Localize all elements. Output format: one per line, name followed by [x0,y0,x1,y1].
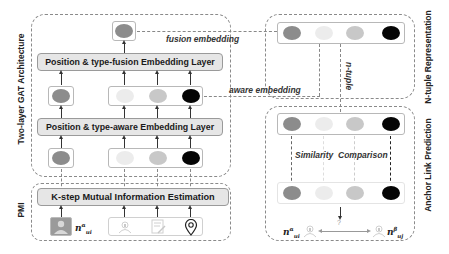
arrow-up [124,138,125,148]
math-subsub: i [90,229,92,235]
math-sup: β [394,226,398,232]
ntuple-location-node [382,26,400,40]
math-subsub: i [298,233,300,239]
anchor-top-profile-node [315,117,333,131]
pmi-attribute-icons-box [108,217,203,236]
ntuple-label: n-tuple [344,62,354,90]
aware-user-node [52,89,70,103]
input-user-node [52,151,70,165]
ntuple-text-node [346,26,364,40]
arrow-up [157,73,158,85]
user-photo-icon [50,217,72,236]
aware-profile-node [116,89,134,103]
similarity-connector [323,136,324,186]
aware-location-node [182,89,200,103]
arrow-up [61,108,62,118]
input-text-node [149,151,167,165]
arrow-up [61,73,62,85]
aware-attribute-nodes-box [108,86,203,106]
pmi-group-label: PMI [16,190,26,230]
text-post-icon [151,219,166,235]
aware-user-node-box [48,86,74,106]
fusion-output-node-box [112,21,136,41]
anchor-bottom-location-node [382,186,400,200]
arrow-up [124,73,125,85]
anchor-link-arrowhead-left [318,229,322,233]
arrow-up [190,108,191,118]
fusion-embedding-connector [137,31,277,32]
arrow-up [157,108,158,118]
arrow-up [190,73,191,85]
aware-embedding-connector [204,96,320,97]
anchor-bottom-text-node [346,186,364,200]
user-icon-left [303,224,317,238]
math-sup: α [290,226,294,232]
kstep-mi-estimation-layer: K-step Mutual Information Estimation [37,188,229,206]
similarity-connector [354,136,355,186]
arrow-up [190,138,191,148]
user-icon-right [372,224,386,238]
fusion-embedding-layer: Position & type-fusion Embedding Layer [37,53,223,71]
anchor-group-label: Anchor Link Prediction [423,110,433,220]
ntuple-connector [340,44,341,112]
input-location-node [182,151,200,165]
aware-embedding-label: aware embedding [229,85,301,95]
anchor-top-location-node [382,117,400,131]
arrow-up [61,138,62,148]
anchor-bottom-user-node [283,186,301,200]
fusion-output-node [115,24,133,38]
prediction-arrow [340,207,341,217]
location-pin-icon [184,219,198,236]
anchor-right-math-label: nβuj [387,226,403,239]
anchor-bottom-profile-node [315,186,333,200]
comparison-label: Comparison [338,150,388,160]
pmi-user-math-label: nαui [75,222,92,235]
arrow-up [157,138,158,148]
ntuple-group-label: N-tuple Representation [423,2,433,112]
question-mark: ? [337,219,341,226]
ntuple-nodes-box [277,22,405,44]
anchor-top-user-node [283,117,301,131]
ntuple-user-node [283,26,301,40]
gat-group-label: Two-layer GAT Architecture [16,24,26,154]
ntuple-profile-node [315,26,333,40]
aware-embedding-layer: Position & type-aware Embedding Layer [37,118,223,136]
anchor-link-line [320,231,368,232]
fusion-embedding-label: fusion embedding [166,34,239,44]
anchor-top-text-node [346,117,364,131]
anchor-left-math-label: nαui [283,226,300,239]
aware-text-node [149,89,167,103]
arrow-fusion-to-output [124,43,125,53]
input-profile-node [116,151,134,165]
math-subsub: j [401,233,403,239]
input-attribute-nodes-box [108,148,203,168]
anchor-bottom-nodes-box [277,182,405,204]
similarity-connector [390,136,391,186]
input-user-node-box [48,148,74,168]
arrow-up [124,108,125,118]
anchor-link-arrowhead-right [367,229,371,233]
user-profile-icon [118,220,132,234]
similarity-connector [291,136,292,186]
math-sup: α [82,222,86,228]
anchor-top-nodes-box [277,113,405,135]
similarity-label: Similarity [295,150,333,160]
aware-embedding-connector-vertical [319,44,320,96]
